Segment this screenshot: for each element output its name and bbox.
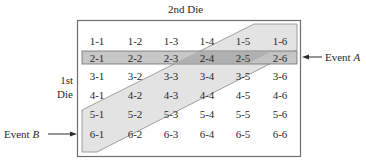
outcome-cell: 5-1 — [82, 108, 112, 120]
row-axis-title: 1st Die — [49, 73, 73, 101]
outcome-cell: 4-1 — [82, 89, 112, 101]
outcome-cell: 4-3 — [156, 89, 186, 101]
outcome-cell: 4-6 — [265, 89, 295, 101]
outcome-cell: 1-3 — [156, 35, 186, 47]
outcome-cell: 4-2 — [120, 89, 150, 101]
outcome-cell: 2-2 — [120, 52, 150, 64]
event-a-arrowhead-icon — [302, 55, 309, 60]
outcome-cell: 3-6 — [265, 70, 295, 82]
outcome-cell: 5-6 — [265, 108, 295, 120]
outcome-cell: 3-4 — [192, 70, 222, 82]
outcome-cell: 2-4 — [192, 52, 222, 64]
outcome-cell: 6-3 — [156, 128, 186, 140]
event-b-letter: B — [32, 128, 39, 140]
outcome-cell: 3-1 — [82, 70, 112, 82]
event-b-prefix: Event — [4, 128, 32, 140]
outcome-cell: 4-4 — [192, 89, 222, 101]
outcome-cell: 4-5 — [228, 89, 258, 101]
outcome-cell: 3-3 — [156, 70, 186, 82]
outcome-cell: 1-2 — [120, 35, 150, 47]
outcome-cell: 1-6 — [265, 35, 295, 47]
outcome-cell: 5-2 — [120, 108, 150, 120]
outcome-cell: 5-3 — [156, 108, 186, 120]
outcome-cell: 1-5 — [228, 35, 258, 47]
outcome-cell: 5-5 — [228, 108, 258, 120]
outcome-cell: 2-5 — [228, 52, 258, 64]
outcome-cell: 6-4 — [192, 128, 222, 140]
event-a-prefix: Event — [325, 51, 353, 63]
event-b-label: Event B — [4, 128, 39, 140]
outcome-cell: 1-1 — [82, 35, 112, 47]
outcome-cell: 1-4 — [192, 35, 222, 47]
outcome-cell: 6-6 — [265, 128, 295, 140]
dice-sample-space-diagram: 2nd Die 1st Die Event A Event B 1-11-21-… — [0, 0, 366, 162]
outcome-cell: 2-6 — [265, 52, 295, 64]
outcome-cell: 3-2 — [120, 70, 150, 82]
outcome-cell: 6-5 — [228, 128, 258, 140]
row-axis-title-line2: Die — [49, 87, 73, 101]
event-a-label: Event A — [325, 51, 360, 63]
event-a-letter: A — [353, 51, 360, 63]
outcome-cell: 2-3 — [156, 52, 186, 64]
row-axis-title-line1: 1st — [49, 73, 73, 87]
outcome-cell: 6-2 — [120, 128, 150, 140]
outcome-cell: 3-5 — [228, 70, 258, 82]
column-axis-title: 2nd Die — [168, 3, 203, 15]
outcome-cell: 2-1 — [82, 52, 112, 64]
outcome-cell: 6-1 — [82, 128, 112, 140]
outcome-cell: 5-4 — [192, 108, 222, 120]
event-b-arrowhead-icon — [70, 132, 77, 137]
